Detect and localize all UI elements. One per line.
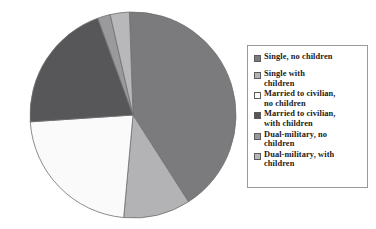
legend-item-married-civilian-with-children[interactable]: Married to civilian, with children bbox=[254, 109, 363, 128]
legend-item-dual-military-no-children[interactable]: Dual-military, no children bbox=[254, 130, 363, 149]
legend-item-single-no-children[interactable]: Single, no children bbox=[254, 52, 363, 62]
pie-chart-figure: Single, no children Single with children… bbox=[0, 0, 376, 229]
legend-swatch-dual-military-with-children bbox=[254, 153, 261, 160]
pie-plot-area bbox=[0, 0, 246, 229]
legend-item-single-with-children[interactable]: Single with children bbox=[254, 69, 363, 88]
pie-svg bbox=[0, 0, 246, 229]
legend-swatch-single-no-children bbox=[254, 55, 261, 62]
pie-slice[interactable] bbox=[30, 115, 133, 218]
legend-item-dual-military-with-children[interactable]: Dual-military, with children bbox=[254, 150, 363, 169]
legend-label-single-no-children: Single, no children bbox=[264, 52, 333, 62]
legend-swatch-married-civilian-no-children bbox=[254, 92, 261, 99]
legend-label-dual-military-no-children: Dual-military, no children bbox=[264, 130, 327, 149]
legend-swatch-dual-military-no-children bbox=[254, 133, 261, 140]
legend-label-dual-military-with-children: Dual-military, with children bbox=[264, 150, 334, 169]
pie-slice-group bbox=[30, 12, 236, 218]
legend-label-married-civilian-with-children: Married to civilian, with children bbox=[264, 109, 336, 128]
legend-label-single-with-children: Single with children bbox=[264, 69, 305, 88]
legend-swatch-single-with-children bbox=[254, 72, 261, 79]
legend-label-married-civilian-no-children: Married to civilian, no children bbox=[264, 89, 336, 108]
chart-legend: Single, no children Single with children… bbox=[247, 45, 368, 188]
legend-swatch-married-civilian-with-children bbox=[254, 112, 261, 119]
legend-item-married-civilian-no-children[interactable]: Married to civilian, no children bbox=[254, 89, 363, 108]
